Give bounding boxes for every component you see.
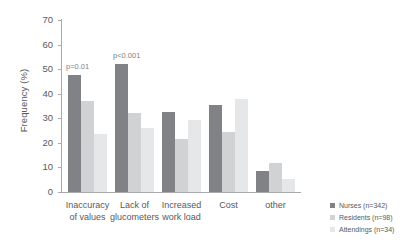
y-axis-tick-label: 10	[42, 160, 53, 173]
x-axis-category-label-line: work load	[145, 211, 219, 223]
legend-item[interactable]: Residents (n=98)	[330, 212, 412, 222]
y-axis-tick-label: 60	[42, 38, 53, 51]
bar-group: p<0.001	[115, 20, 154, 192]
y-axis-tick: 10	[0, 167, 62, 168]
bar	[188, 120, 201, 192]
legend-swatch-icon	[330, 203, 335, 208]
bar-group	[209, 20, 248, 192]
bar	[128, 113, 141, 192]
legend-item[interactable]: Nurses (n=342)	[330, 200, 412, 210]
plot-area: p=0.01p<0.001	[62, 20, 299, 192]
y-axis-tick-label: 40	[42, 87, 53, 100]
y-axis-tick: 60	[0, 45, 62, 46]
y-axis-tick: 0	[0, 192, 62, 193]
bar	[209, 105, 222, 192]
y-axis-title: Frequency (%)	[18, 31, 29, 171]
y-axis-tick-label: 0	[48, 185, 53, 198]
bar	[141, 128, 154, 192]
y-axis-tick: 50	[0, 69, 62, 70]
y-axis-tick: 30	[0, 118, 62, 119]
bar	[162, 112, 175, 192]
legend-swatch-icon	[330, 227, 335, 232]
p-value-annotation: p<0.001	[113, 51, 140, 60]
y-axis-tick-label: 50	[42, 62, 53, 75]
x-axis-line	[61, 192, 301, 193]
y-axis-tick: 40	[0, 94, 62, 95]
x-axis-category-label-line: other	[239, 199, 313, 211]
bar	[94, 134, 107, 192]
bar	[235, 99, 248, 192]
legend-swatch-icon	[330, 215, 335, 220]
bar-chart-figure: Frequency (%) 010203040506070 p=0.01p<0.…	[0, 0, 413, 245]
bar-group	[162, 20, 201, 192]
y-axis-tick-label: 70	[42, 13, 53, 26]
bar	[222, 132, 235, 192]
bar-group	[256, 20, 295, 192]
chart-legend: Nurses (n=342)Residents (n=98)Attendings…	[330, 200, 412, 236]
p-value-annotation: p=0.01	[66, 62, 89, 71]
y-axis-tick: 20	[0, 143, 62, 144]
legend-item-label: Attendings (n=34)	[339, 226, 394, 233]
bar-group: p=0.01	[68, 20, 107, 192]
legend-item[interactable]: Attendings (n=34)	[330, 224, 412, 234]
bar	[282, 179, 295, 193]
x-axis-category-label: other	[239, 199, 313, 211]
bar	[68, 75, 81, 192]
legend-item-label: Residents (n=98)	[339, 214, 393, 221]
bar	[175, 139, 188, 192]
y-axis-tick: 70	[0, 20, 62, 21]
bar	[115, 64, 128, 192]
y-axis-tick-label: 30	[42, 111, 53, 124]
bar	[269, 163, 282, 192]
legend-item-label: Nurses (n=342)	[339, 202, 387, 209]
y-axis-tick-mark	[58, 192, 62, 193]
bar	[256, 171, 269, 192]
y-axis-tick-label: 20	[42, 136, 53, 149]
bar	[81, 101, 94, 192]
